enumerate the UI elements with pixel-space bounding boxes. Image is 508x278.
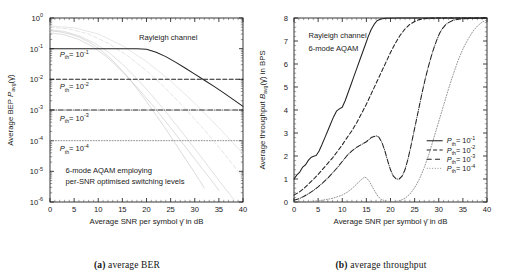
- pth-2-label: Pth= 10-2: [60, 81, 89, 93]
- caption-b-tag: (b): [336, 260, 348, 270]
- y-tick-label-a: 100: [32, 12, 43, 23]
- annot-eq: = 10: [69, 50, 84, 59]
- y-tick-label-a: 10-5: [30, 166, 43, 177]
- legend-eq: = 10: [456, 164, 471, 173]
- y-tick-exponent-a: -5: [38, 166, 43, 172]
- rayleigh-channel-label: Rayleigh channel: [139, 33, 198, 42]
- x-tick-label-b: 35: [459, 205, 467, 214]
- x-tick-label-b: 5: [316, 205, 320, 214]
- chart-a-average-ber: 10010-110-210-310-410-510-60510152025303…: [0, 0, 254, 240]
- y-tick-label-a: 10-6: [30, 196, 43, 207]
- annot-exponent: -2: [84, 81, 89, 87]
- caption-a: (a) average BER: [0, 260, 254, 270]
- figure-two-panel: 10010-110-210-310-410-510-60510152025303…: [0, 0, 508, 278]
- pth-4-label: Pth= 10-4: [60, 143, 89, 155]
- x-tick-label-a: 0: [48, 205, 52, 214]
- rayleigh-channel-label: Rayleigh channel: [308, 31, 367, 40]
- aqam-note-line1: 6-mode AQAM employing: [65, 166, 152, 175]
- x-tick-label-b: 20: [386, 205, 394, 214]
- x-tick-label-a: 15: [118, 205, 126, 214]
- y-tick-exponent-a: -3: [38, 104, 43, 110]
- y-tick-label-b: 1: [284, 175, 288, 184]
- y-tick-label-b: 5: [284, 83, 288, 92]
- y-axis-label-b: Average throughput Bavg(γ̄) in BPS: [258, 50, 268, 169]
- legend-eq: = 10: [456, 136, 471, 145]
- y-tick-exponent-a: -6: [38, 196, 43, 202]
- y-tick-exponent-a: -4: [38, 135, 43, 141]
- x-axis-label-a: Average SNR per symbol γ̄ in dB: [90, 217, 204, 226]
- pth-3-label: Pth= 10-3: [60, 112, 89, 124]
- y-tick-label-b: 2: [284, 152, 288, 161]
- y-tick-label-b: 8: [284, 14, 288, 23]
- aqam-note-line2: per-SNR optimised switching levels: [65, 177, 184, 186]
- y-tick-label-a: 10-1: [30, 43, 43, 54]
- annot-eq: = 10: [69, 144, 84, 153]
- legend-exponent: -2: [471, 144, 476, 150]
- annot-exponent: -3: [84, 112, 89, 118]
- x-tick-label-a: 20: [142, 205, 150, 214]
- y-tick-label-a: 10-3: [30, 104, 43, 115]
- x-tick-label-b: 25: [410, 205, 418, 214]
- legend-exponent: -4: [471, 163, 476, 169]
- annot-eq: = 10: [69, 82, 84, 91]
- y-tick-label-b: 6: [284, 60, 288, 69]
- caption-a-tag: (a): [94, 260, 106, 270]
- y-tick-label-b: 4: [284, 106, 288, 115]
- x-tick-label-b: 30: [435, 205, 443, 214]
- legend-eq: = 10: [456, 155, 471, 164]
- y-axis-label-a: Average BEP Pavg(γ̄): [6, 74, 16, 146]
- aqam-mode-label: 6-mode AQAM: [308, 44, 358, 53]
- annot-exponent: -4: [84, 143, 89, 149]
- x-tick-label-b: 0: [292, 205, 296, 214]
- legend-eq: = 10: [456, 146, 471, 155]
- annot-exponent: -1: [84, 49, 89, 55]
- legend-exponent: -3: [471, 153, 476, 159]
- y-tick-exponent-a: -2: [38, 74, 43, 80]
- panel-a-average-ber: 10010-110-210-310-410-510-60510152025303…: [0, 0, 254, 278]
- legend-exponent: -1: [471, 135, 476, 141]
- x-tick-label-a: 10: [94, 205, 102, 214]
- pth-1-label: Pth= 10-1: [60, 49, 89, 61]
- x-tick-label-a: 35: [215, 205, 223, 214]
- y-label-arg: (γ̄) in BPS: [258, 50, 267, 85]
- y-tick-label-b: 3: [284, 129, 288, 138]
- y-tick-label-b: 0: [284, 198, 288, 207]
- caption-b: (b) average throughput: [254, 260, 508, 270]
- y-tick-label-a: 10-2: [30, 74, 43, 85]
- x-tick-label-a: 30: [191, 205, 199, 214]
- x-axis-label-b: Average SNR per symbol γ̄ in dB: [334, 217, 448, 226]
- annot-eq: = 10: [69, 114, 84, 123]
- y-tick-exponent-a: 0: [40, 12, 43, 18]
- x-tick-label-b: 15: [362, 205, 370, 214]
- panel-b-average-throughput: 0123456780510152025303540Rayleigh channe…: [254, 0, 508, 278]
- x-tick-label-a: 5: [72, 205, 76, 214]
- x-tick-label-a: 25: [166, 205, 174, 214]
- x-tick-label-b: 10: [338, 205, 346, 214]
- y-tick-exponent-a: -1: [38, 43, 43, 49]
- y-label-arg: (γ̄): [6, 74, 15, 83]
- chart-b-average-throughput: 0123456780510152025303540Rayleigh channe…: [254, 0, 508, 240]
- caption-b-text: average throughput: [348, 260, 427, 270]
- caption-a-text: average BER: [105, 260, 160, 270]
- y-tick-label-b: 7: [284, 37, 288, 46]
- x-tick-label-a: 40: [239, 205, 247, 214]
- x-tick-label-b: 40: [483, 205, 491, 214]
- y-tick-label-a: 10-4: [30, 135, 43, 146]
- legend-pth-4: Pth= 10-4: [447, 163, 476, 175]
- y-label-subscript: avg: [10, 83, 16, 91]
- y-label-subscript: avg: [262, 85, 268, 93]
